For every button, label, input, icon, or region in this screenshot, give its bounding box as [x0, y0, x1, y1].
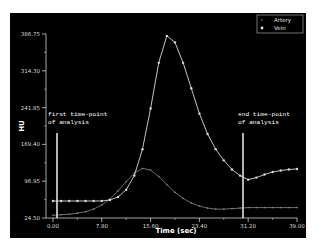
artery-point-marker-icon — [215, 208, 217, 210]
vein-point-marker-icon — [255, 176, 257, 178]
vein-point-marker-icon — [206, 133, 208, 135]
vein-point-marker-icon — [68, 200, 70, 202]
vein-point-marker-icon — [52, 200, 54, 202]
artery-point-marker-icon — [142, 168, 144, 170]
vein-point-marker-icon — [280, 169, 282, 171]
artery-point-marker-icon — [60, 214, 62, 216]
y-tick-label: 24.50 — [24, 215, 40, 221]
artery-point-marker-icon — [182, 198, 184, 200]
artery-point-marker-icon — [199, 205, 201, 207]
artery-point-marker-icon — [93, 208, 95, 210]
artery-point-marker-icon — [272, 207, 274, 209]
artery-point-marker-icon — [256, 207, 258, 209]
x-tick-label: 7.80 — [96, 223, 109, 229]
artery-point-marker-icon — [231, 208, 233, 210]
vein-point-marker-icon — [101, 200, 103, 202]
artery-point-marker-icon — [77, 212, 79, 214]
artery-point-marker-icon — [125, 181, 127, 183]
line-chart: 24.5096.95169.40241.85314.30386.75 0.007… — [0, 0, 319, 251]
vein-point-marker-icon — [247, 178, 249, 180]
vein-point-marker-icon — [182, 62, 184, 64]
vein-point-marker-icon — [174, 41, 176, 43]
x-tick-label: 31.20 — [240, 223, 256, 229]
artery-point-marker-icon — [68, 213, 70, 215]
vein-point-marker-icon — [60, 200, 62, 202]
artery-point-marker-icon — [52, 214, 54, 216]
vein-point-marker-icon — [296, 168, 298, 170]
artery-point-marker-icon — [247, 207, 249, 209]
y-tick-label: 386.75 — [21, 31, 41, 37]
vein-point-marker-icon — [133, 174, 135, 176]
artery-point-marker-icon — [117, 190, 119, 192]
legend-artery-label: Artery — [274, 17, 292, 24]
x-tick-label: 39.00 — [289, 223, 305, 229]
vein-point-marker-icon — [263, 173, 265, 175]
legend: Artery Vein — [257, 15, 303, 33]
artery-point-marker-icon — [166, 184, 168, 186]
vein-point-marker-icon — [76, 200, 78, 202]
artery-point-marker-icon — [239, 207, 241, 209]
artery-point-marker-icon — [264, 207, 266, 209]
first-time-point-label-2: of analysis — [48, 119, 89, 126]
vein-point-marker-icon — [109, 199, 111, 201]
legend-vein-marker-icon — [261, 27, 264, 30]
artery-point-marker-icon — [207, 207, 209, 209]
vein-point-marker-icon — [141, 148, 143, 150]
vein-point-marker-icon — [288, 168, 290, 170]
vein-point-marker-icon — [239, 174, 241, 176]
end-time-point-label-1: end time-point — [238, 111, 290, 118]
vein-point-marker-icon — [158, 62, 160, 64]
artery-point-marker-icon — [150, 169, 152, 171]
legend-artery-marker-icon — [261, 19, 263, 21]
vein-point-marker-icon — [84, 200, 86, 202]
first-time-point-label-1: first time-point — [48, 111, 108, 118]
artery-point-marker-icon — [190, 202, 192, 204]
artery-point-marker-icon — [174, 192, 176, 194]
vein-point-marker-icon — [190, 87, 192, 89]
y-tick-label: 314.30 — [21, 68, 41, 74]
y-axis-title: HU — [18, 120, 26, 132]
artery-point-marker-icon — [158, 176, 160, 178]
vein-point-marker-icon — [198, 112, 200, 114]
artery-point-marker-icon — [85, 211, 87, 213]
vein-point-marker-icon — [166, 35, 168, 37]
vein-point-marker-icon — [117, 196, 119, 198]
y-tick-label: 241.85 — [21, 105, 41, 111]
vein-point-marker-icon — [214, 148, 216, 150]
vein-point-marker-icon — [149, 107, 151, 109]
artery-point-marker-icon — [223, 208, 225, 210]
y-tick-label: 169.40 — [21, 141, 41, 147]
x-axis-title: Time (sec) — [155, 227, 196, 235]
vein-point-marker-icon — [125, 189, 127, 191]
artery-point-marker-icon — [101, 204, 103, 206]
vein-point-marker-icon — [223, 159, 225, 161]
legend-vein-label: Vein — [274, 25, 286, 31]
y-tick-label: 96.95 — [24, 178, 40, 184]
vein-point-marker-icon — [271, 171, 273, 173]
vein-point-marker-icon — [231, 168, 233, 170]
artery-point-marker-icon — [288, 207, 290, 209]
artery-point-marker-icon — [280, 207, 282, 209]
x-tick-label: 0.00 — [47, 223, 60, 229]
vein-point-marker-icon — [92, 200, 94, 202]
artery-point-marker-icon — [296, 207, 298, 209]
end-time-point-label-2: of analysis — [238, 119, 279, 126]
